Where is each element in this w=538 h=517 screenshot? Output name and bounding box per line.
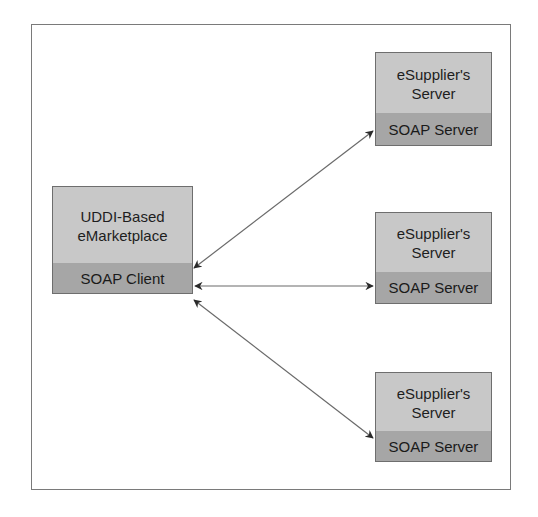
- arrow-to-top-server: [194, 131, 373, 268]
- connection-arrows: [0, 0, 538, 517]
- arrow-to-bottom-server: [194, 300, 373, 438]
